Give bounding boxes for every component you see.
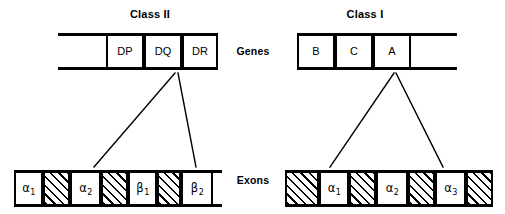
segment-label-subscript: 1 <box>144 188 149 197</box>
exon-bar-class-ii: α1α2β1β2 <box>14 170 222 207</box>
segment-label: DQ <box>155 46 172 57</box>
row-label-exons: Exons <box>222 174 284 186</box>
exon-bar-class-i-segment-hatch-4 <box>408 173 435 204</box>
segment-label: DR <box>192 46 208 57</box>
panel-title-class-ii: Class II <box>100 8 200 20</box>
exon-bar-class-ii-segment-hatch-1 <box>43 173 70 204</box>
gene-bar-class-ii-segment-dq-2: DQ <box>144 36 182 67</box>
gene-bar-class-i-segment-spacer-3 <box>411 36 457 67</box>
segment-label: α3 <box>444 183 457 195</box>
exon-bar-class-ii-segment--2-6: β2 <box>181 173 213 204</box>
segment-label: A <box>388 46 395 57</box>
segment-label: C <box>350 46 358 57</box>
gene-bar-class-i-segment-c-1: C <box>335 36 373 67</box>
exon-bar-class-i-segment-hatch-0 <box>285 173 319 204</box>
exon-bar-class-ii-segment-hatch-5 <box>157 173 181 204</box>
segment-label: α1 <box>22 183 35 195</box>
exon-bar-class-ii-segment--2-2: α2 <box>70 173 101 204</box>
connector-line-class-i-1 <box>396 73 443 167</box>
segment-label-subscript: 2 <box>87 188 92 197</box>
exon-bar-class-i-segment--1-1: α1 <box>319 173 349 204</box>
connector-line-class-ii-0 <box>94 73 175 167</box>
segment-label-subscript: 1 <box>30 188 35 197</box>
exon-bar-class-i: α1α2α3 <box>285 170 493 207</box>
gene-bar-class-ii-segment-dp-1: DP <box>106 36 144 67</box>
exon-bar-class-i-segment--3-5: α3 <box>435 173 466 204</box>
segment-label-subscript: 1 <box>336 188 341 197</box>
exon-bar-class-ii-segment--1-0: α1 <box>14 173 43 204</box>
exon-bar-class-i-segment--2-3: α2 <box>376 173 408 204</box>
exon-bar-class-i-segment-hatch-6 <box>466 173 493 204</box>
exon-bar-class-ii-segment-hatch-3 <box>101 173 128 204</box>
segment-label: DP <box>117 46 132 57</box>
segment-label-subscript: 2 <box>199 188 204 197</box>
segment-label-subscript: 3 <box>452 188 457 197</box>
segment-label: β2 <box>191 183 203 195</box>
segment-label: B <box>312 46 319 57</box>
gene-bar-class-ii: DPDQDR <box>58 33 218 70</box>
connector-line-class-ii-1 <box>178 73 196 167</box>
mhc-gene-exon-diagram: Class II Class I Genes Exons DPDQDR BCA … <box>0 0 505 214</box>
connector-line-class-i-0 <box>330 73 394 167</box>
gene-bar-class-ii-segment-spacer-0 <box>58 36 106 67</box>
segment-label: α1 <box>328 183 341 195</box>
exon-bar-class-ii-segment--1-4: β1 <box>128 173 157 204</box>
segment-label: α2 <box>79 183 92 195</box>
row-label-genes: Genes <box>222 45 284 57</box>
panel-title-class-i: Class I <box>315 8 415 20</box>
gene-bar-class-i-segment-a-2: A <box>373 36 411 67</box>
segment-label-subscript: 2 <box>394 188 399 197</box>
gene-bar-class-i-segment-b-0: B <box>297 36 335 67</box>
gene-bar-class-i: BCA <box>297 33 457 70</box>
gene-bar-class-ii-segment-dr-3: DR <box>182 36 218 67</box>
segment-label: β1 <box>136 183 148 195</box>
exon-bar-class-ii-segment-spacer-7 <box>213 173 222 204</box>
exon-bar-class-i-segment-hatch-2 <box>349 173 376 204</box>
segment-label: α2 <box>386 183 399 195</box>
